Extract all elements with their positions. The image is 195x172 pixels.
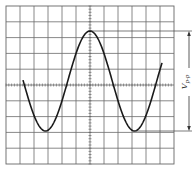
- oscilloscope-display: Vp-p: [0, 0, 195, 172]
- waveform-trace: [23, 31, 162, 131]
